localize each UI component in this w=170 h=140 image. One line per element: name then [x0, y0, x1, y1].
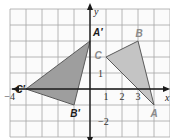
vertex-label: B′ — [70, 108, 80, 119]
y-axis-label: y — [93, 6, 99, 17]
y-tick-label: 1 — [98, 68, 103, 79]
vertex-label: C — [94, 50, 102, 61]
vertex-label: A — [149, 108, 157, 119]
vertex-label: A′ — [92, 27, 103, 38]
vertex-label: C′ — [15, 84, 25, 95]
x-tick-label: 2 — [120, 91, 125, 102]
y-axis-arrow-down-icon — [87, 137, 93, 140]
x-tick-label: 1 — [104, 91, 109, 102]
x-tick-label: −4 — [4, 91, 15, 102]
y-axis-arrow-up-icon — [87, 3, 93, 10]
coordinate-plane: xy−41231−2ABCA′B′C′ — [0, 0, 170, 140]
x-tick-label: 3 — [136, 91, 141, 102]
y-tick-label: −2 — [98, 116, 109, 127]
vertex-label: B — [135, 28, 142, 39]
x-axis-label: x — [164, 92, 170, 103]
